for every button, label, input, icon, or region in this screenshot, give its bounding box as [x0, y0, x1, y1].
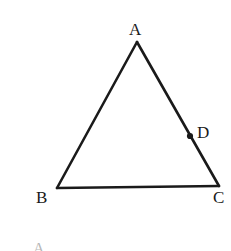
geometry-figure: A B C D A	[0, 0, 231, 251]
vertex-label-b: B	[36, 189, 47, 206]
vertex-label-c: C	[213, 189, 224, 206]
point-label-d: D	[197, 124, 209, 141]
point-d-marker	[187, 133, 193, 139]
clipped-text-fragment: A	[33, 241, 45, 251]
vertex-label-a: A	[129, 21, 141, 38]
